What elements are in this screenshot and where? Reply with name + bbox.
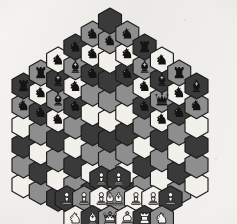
hex-chess-board[interactable] xyxy=(0,0,237,224)
black-rook-piece[interactable] xyxy=(140,41,149,52)
board-canvas[interactable] xyxy=(0,0,237,224)
black-rook-piece[interactable] xyxy=(19,80,28,91)
black-rook-piece[interactable] xyxy=(175,67,184,78)
black-rook-piece[interactable] xyxy=(36,67,45,78)
white-rook-piece[interactable] xyxy=(140,213,149,224)
white-queen-piece[interactable] xyxy=(104,212,117,224)
